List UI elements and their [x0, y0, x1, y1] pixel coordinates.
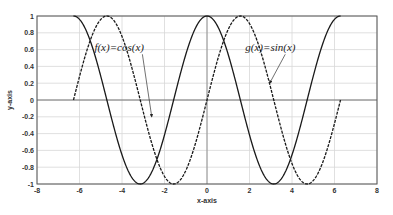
x-tick-label: 8 — [375, 187, 379, 194]
y-tick-label: 1 — [30, 13, 34, 20]
y-tick-label: -0.8 — [22, 164, 34, 171]
x-tick-label: -6 — [76, 187, 82, 194]
x-tick-label: 4 — [290, 187, 294, 194]
x-tick-label: 6 — [333, 187, 337, 194]
annotation-arrow-icon — [142, 54, 151, 117]
annotation-arrow-icon — [270, 54, 286, 83]
x-tick-label: -4 — [119, 187, 125, 194]
y-tick-label: -0.4 — [22, 130, 34, 137]
x-axis-label: x-axis — [197, 197, 217, 204]
y-tick-label: -1 — [28, 181, 34, 188]
cos-annotation: f(x)=cos(x) — [94, 41, 144, 54]
x-tick-label: 2 — [248, 187, 252, 194]
y-tick-label: 0.6 — [24, 46, 34, 53]
chart: -8-6-4-202468 10.80.60.40.20-0.2-0.4-0.6… — [0, 0, 393, 215]
annotations: f(x)=cos(x)g(x)=sin(x) — [94, 41, 295, 117]
y-tick-label: 0.4 — [24, 63, 34, 70]
y-tick-label: 0.8 — [24, 29, 34, 36]
y-tick-label: 0.2 — [24, 80, 34, 87]
y-tick-label: -0.2 — [22, 113, 34, 120]
y-tick-label: -0.6 — [22, 147, 34, 154]
y-axis-label: y-axis — [6, 90, 14, 110]
y-tick-labels: 10.80.60.40.20-0.2-0.4-0.6-0.8-1 — [22, 13, 34, 188]
x-tick-label: 0 — [205, 187, 209, 194]
x-tick-label: -8 — [34, 187, 40, 194]
y-tick-label: 0 — [30, 97, 34, 104]
x-tick-label: -2 — [161, 187, 167, 194]
x-tick-labels: -8-6-4-202468 — [34, 187, 379, 194]
sin-annotation: g(x)=sin(x) — [245, 41, 296, 54]
